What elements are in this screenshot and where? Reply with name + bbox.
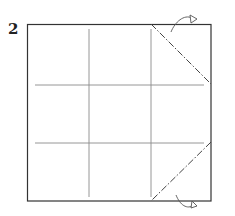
paper-square: [28, 25, 212, 202]
origami-diagram: [0, 0, 235, 216]
